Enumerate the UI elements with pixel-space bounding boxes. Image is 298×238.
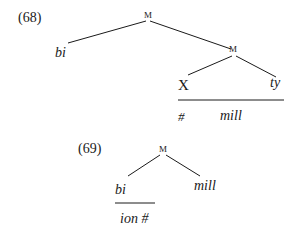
branch-m-ty <box>236 56 276 77</box>
root-node-69: M <box>159 145 167 154</box>
leaf-bi-69: bi <box>115 183 126 197</box>
example-number-68: (68) <box>18 11 41 25</box>
root-node-68: M <box>144 11 152 20</box>
branch-root69-mill <box>166 155 200 176</box>
example-number-69: (69) <box>78 142 101 156</box>
branch-root-bi <box>68 21 146 43</box>
morpheme-ion-69: ion # <box>120 212 148 226</box>
leaf-ty-68: ty <box>270 76 280 90</box>
branch-root69-bi <box>128 155 160 176</box>
branch-root-m <box>150 21 231 49</box>
boundary-hash-68: # <box>178 110 185 123</box>
leaf-x-68: X <box>178 78 189 93</box>
morpheme-mill-68: mill <box>220 109 242 123</box>
tree-lines <box>0 0 298 238</box>
branch-m-x <box>188 56 232 75</box>
inner-node-68: M <box>229 45 237 54</box>
leaf-bi-68: bi <box>55 46 66 60</box>
leaf-mill-69: mill <box>194 179 216 193</box>
